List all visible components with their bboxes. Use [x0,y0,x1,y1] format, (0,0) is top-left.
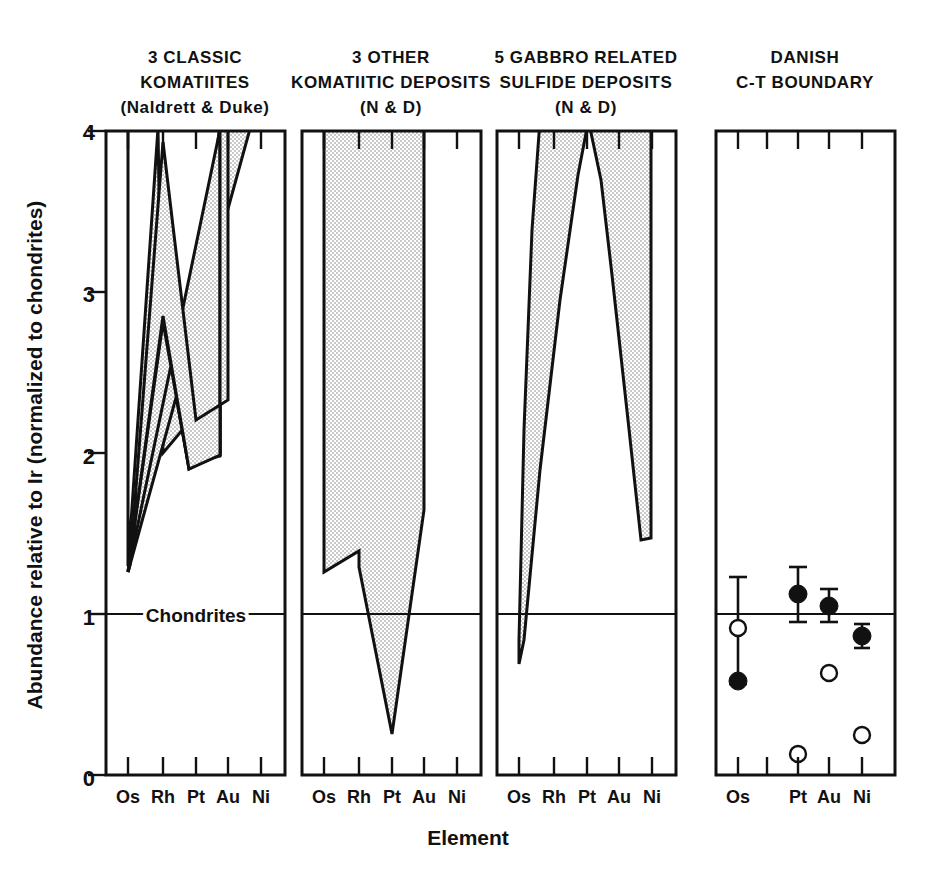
panel-2-xtick-pt: Pt [383,787,401,807]
panel-1-xtick-au: Au [216,787,240,807]
y-tick-label-1: 1 [83,605,95,630]
abundance-chart: 4 3 2 1 0 Abundance relative to Ir (norm… [0,0,936,893]
datapoint-open-ni [854,727,870,743]
x-axis-title: Element [427,826,509,849]
panel-4-title-line2: C-T BOUNDARY [736,73,874,92]
panel-3-xtick-rh: Rh [542,787,566,807]
datapoint-open-au [821,665,837,681]
panel-1-xtick-ni: Ni [252,787,270,807]
y-tick-label-4: 4 [83,120,96,145]
panel-1-xtick-rh: Rh [151,787,175,807]
panel-3-xtick-au: Au [607,787,631,807]
marker-filled-circle [729,672,747,690]
marker-filled-circle [820,597,838,615]
panel-1-title-line2: KOMATIITES [140,73,250,92]
panel-1-title-line3: (Naldrett & Duke) [120,98,269,117]
y-tick-label-0: 0 [83,766,95,791]
panel-2-title-line3: (N & D) [360,98,422,117]
panel-1-xtick-os: Os [116,787,140,807]
chondrite-reference-label: Chondrites [146,605,246,626]
marker-filled-circle [789,585,807,603]
panel-4-xtick-au: Au [817,787,841,807]
panel-2-title-line1: 3 OTHER [352,48,430,67]
panel-4-xtick-os: Os [726,787,750,807]
panel-2-xtick-os: Os [312,787,336,807]
panel-3-title-line2: SULFIDE DEPOSITS [499,73,672,92]
figure-container: 4 3 2 1 0 Abundance relative to Ir (norm… [0,0,936,893]
panel-2-xtick-ni: Ni [448,787,466,807]
y-tick-label-2: 2 [83,444,95,469]
marker-filled-circle [853,627,871,645]
panel-3-title-line1: 5 GABBRO RELATED [494,48,677,67]
datapoint-open-os [730,620,746,636]
panel-3-title-line3: (N & D) [555,98,617,117]
panel-1-xtick-pt: Pt [187,787,205,807]
panel-2-title-line2: KOMATIITIC DEPOSITS [291,73,491,92]
panel-3-xtick-ni: Ni [643,787,661,807]
panel-2-xtick-rh: Rh [347,787,371,807]
panel-2-xtick-au: Au [412,787,436,807]
panel-3-xtick-os: Os [507,787,531,807]
panel-4-xtick-ni: Ni [853,787,871,807]
panel-3-xtick-pt: Pt [578,787,596,807]
panel-4-title-line1: DANISH [771,48,840,67]
panel-4-xtick-pt: Pt [789,787,807,807]
panel-1-title-line1: 3 CLASSIC [148,48,242,67]
y-tick-label-3: 3 [83,282,95,307]
y-axis-title: Abundance relative to Ir (normalized to … [23,201,46,710]
